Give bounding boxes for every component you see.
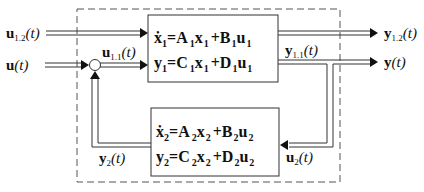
label-y2: y2(t) xyxy=(99,150,125,168)
block-diagram: u1.2(t) u(t) u1.1(t) y1.2(t) y1.1(t) y(t… xyxy=(0,0,424,192)
u12-input-arrow xyxy=(46,28,148,38)
label-u12: u1.2(t) xyxy=(6,25,40,43)
y2-feedback-arrow xyxy=(90,71,151,147)
label-y12: y1.2(t) xyxy=(384,25,417,43)
y12-output-arrow xyxy=(278,28,378,38)
u-input-arrow xyxy=(45,60,89,70)
label-y11: y1.1(t) xyxy=(285,42,318,60)
summing-junction xyxy=(90,60,101,71)
label-u11: u1.1(t) xyxy=(102,44,136,62)
system-1-block xyxy=(148,15,278,82)
label-u: u(t) xyxy=(6,57,29,74)
system-2-block xyxy=(151,108,279,176)
label-u2: u2(t) xyxy=(286,149,313,167)
label-y: y(t) xyxy=(384,54,406,71)
y11-output-arrow xyxy=(278,57,378,150)
u11-arrow xyxy=(100,60,148,70)
